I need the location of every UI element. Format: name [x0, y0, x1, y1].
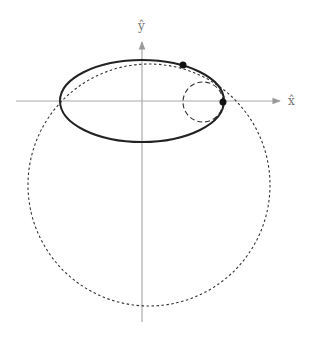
x-axis-label: x̂	[288, 94, 295, 108]
small-dashed-circle	[183, 82, 223, 122]
large-dotted-circle	[28, 64, 270, 306]
orbit-points	[180, 62, 227, 106]
periapsis-point	[220, 99, 227, 106]
orbit-diagram: x̂ ŷ	[0, 0, 309, 339]
upper-point	[180, 62, 187, 69]
y-axis-label: ŷ	[137, 19, 145, 33]
